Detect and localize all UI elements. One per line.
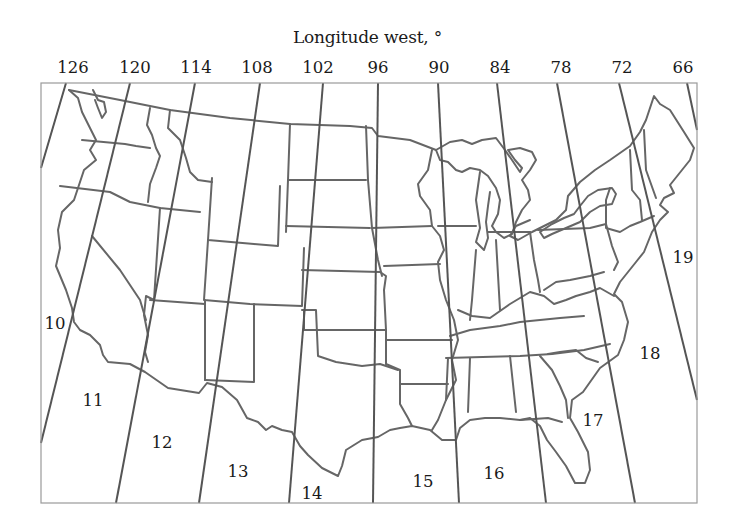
- border-mn-ia: [372, 226, 432, 228]
- meridian-96: [373, 83, 378, 503]
- border-oh-pa: [530, 232, 540, 292]
- meridian-126: [41, 83, 66, 168]
- zone-label-18: 18: [640, 344, 661, 363]
- border-ga-fl: [520, 418, 562, 422]
- border-ok-tx: [302, 310, 398, 370]
- meridian-66: [687, 83, 697, 130]
- border-ks-mo: [380, 272, 386, 364]
- puget-sound: [93, 90, 106, 118]
- us-map: [0, 0, 735, 529]
- zone-label-16: 16: [484, 464, 505, 483]
- new-mexico-box: [205, 304, 254, 382]
- border-mt-nd-sd: [286, 124, 290, 232]
- zone-label-17: 17: [583, 411, 604, 430]
- meridian-102: [289, 83, 323, 503]
- border-ky-va-wv: [458, 288, 614, 318]
- lake-michigan-shore: [476, 172, 490, 250]
- border-ut-az: [150, 300, 205, 304]
- border-vt-nh: [630, 150, 642, 220]
- border-al-ga: [510, 356, 516, 412]
- zone-label-19: 19: [673, 248, 694, 267]
- mississippi-river: [418, 150, 458, 430]
- border-ms-al: [468, 358, 470, 412]
- border-ne-ks: [302, 270, 380, 272]
- colorado-box: [204, 240, 304, 306]
- meridian-84: [497, 83, 546, 503]
- border-id-mt: [168, 110, 212, 182]
- meridian-78: [557, 83, 635, 503]
- meridian-108: [199, 83, 260, 503]
- zone-label-11: 11: [83, 391, 104, 410]
- border-ms-la: [446, 358, 448, 400]
- border-ga-sc: [540, 356, 568, 418]
- border-ca-nv: [92, 236, 146, 320]
- border-mn-dakotas: [366, 126, 382, 276]
- border-ia-mo: [384, 264, 440, 266]
- border-il-in: [470, 250, 476, 320]
- border-or-ca-nv-ut: [60, 186, 200, 212]
- zone-label-13: 13: [228, 462, 249, 481]
- zone-label-14: 14: [302, 484, 323, 503]
- border-sd-ne: [286, 226, 370, 228]
- border-id-or: [147, 108, 160, 202]
- zone-label-10: 10: [45, 314, 66, 333]
- zone-label-15: 15: [413, 472, 434, 491]
- zone-label-12: 12: [152, 433, 173, 452]
- border-ar-tx-la: [386, 364, 412, 426]
- border-in-oh: [496, 240, 500, 310]
- meridian-120: [41, 83, 130, 443]
